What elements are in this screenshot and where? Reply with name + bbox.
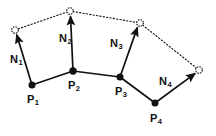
point-label-p4: P4 [150,113,162,124]
normal-label-n2-text: N [59,32,67,44]
offset-polyline [15,11,199,70]
normal-label-n3: N3 [110,38,122,49]
point-label-p3: P3 [115,86,127,97]
base-point-p1 [29,82,36,89]
point-label-p1: P1 [27,94,39,105]
point-label-p1-text: P [27,93,34,105]
normal-label-n1-text: N [10,53,18,65]
point-label-p2-sub: 2 [76,84,80,93]
offset-point-q3 [137,20,144,27]
base-polyline [32,71,155,103]
base-point-p2 [69,67,76,74]
normal-label-n1-sub: 1 [18,58,22,67]
normal-label-n3-sub: 3 [118,42,122,51]
figure-canvas: N1 N2 N3 N4 P1 P2 P3 P4 [0,0,216,136]
normal-label-n4: N4 [159,76,171,87]
point-label-p4-sub: 4 [158,117,162,126]
base-point-p4 [152,100,159,107]
normals-diagram [0,0,216,136]
normal-label-n4-text: N [159,75,167,87]
point-label-p2-text: P [68,79,75,91]
normal-label-n4-sub: 4 [167,80,171,89]
normal-label-n1: N1 [10,54,22,65]
offset-point-q1 [12,27,19,34]
normal-label-n2-sub: 2 [67,37,71,46]
point-label-p2: P2 [68,80,80,91]
point-label-p3-text: P [115,85,122,97]
offset-point-q4 [196,67,203,74]
normal-vector-n3 [120,27,137,77]
point-label-p4-text: P [150,112,157,124]
offset-point-q2 [67,8,74,15]
point-label-p3-sub: 3 [123,90,127,99]
base-point-p3 [117,74,124,81]
normal-label-n2: N2 [59,33,71,44]
point-label-p1-sub: 1 [35,98,39,107]
normal-label-n3-text: N [110,37,118,49]
